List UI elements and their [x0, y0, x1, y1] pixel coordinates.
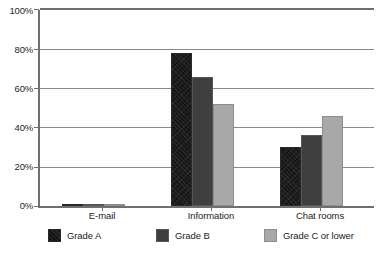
legend-swatch-grade-b-icon	[156, 229, 169, 242]
y-tick-label: 40%	[15, 122, 33, 133]
plot-area	[38, 10, 374, 208]
y-tick-mark	[34, 206, 39, 207]
bar-chart: 100% 80% 60% 40% 20% 0% E-mail	[0, 0, 383, 254]
legend-label-grade-c-or-lower: Grade C or lower	[283, 230, 354, 241]
gridline-100	[40, 8, 374, 10]
gridline-80	[40, 49, 374, 50]
y-tick-label: 80%	[15, 44, 33, 55]
bar-chat-rooms-grade-c-or-lower	[322, 116, 343, 206]
legend-entry-grade-c-or-lower: Grade C or lower	[264, 227, 354, 243]
y-tick-mark	[34, 127, 39, 128]
legend: Grade A Grade B Grade C or lower	[38, 227, 372, 245]
y-tick-label: 60%	[15, 83, 33, 94]
legend-label-grade-b: Grade B	[175, 230, 210, 241]
bar-email-grade-c-or-lower	[104, 204, 125, 206]
legend-swatch-grade-a-icon	[48, 229, 61, 242]
y-tick-label: 20%	[15, 161, 33, 172]
y-tick-label: 100%	[10, 5, 34, 16]
x-axis-label-chat-rooms: Chat rooms	[280, 210, 360, 221]
bar-information-grade-c-or-lower	[213, 104, 234, 206]
y-axis-labels: 100% 80% 60% 40% 20% 0%	[0, 0, 33, 254]
bar-chat-rooms-grade-a	[280, 147, 301, 206]
bar-information-grade-b	[192, 77, 213, 206]
y-tick-mark	[34, 49, 39, 50]
x-axis-label-email: E-mail	[62, 210, 142, 221]
y-tick-label: 0%	[20, 200, 33, 211]
y-tick-mark	[34, 9, 39, 10]
legend-entry-grade-a: Grade A	[48, 227, 101, 243]
x-axis-label-information: Information	[171, 210, 251, 221]
y-tick-mark	[34, 167, 39, 168]
legend-entry-grade-b: Grade B	[156, 227, 210, 243]
bar-email-grade-b	[83, 204, 104, 206]
bar-information-grade-a	[171, 53, 192, 206]
legend-swatch-grade-c-or-lower-icon	[264, 229, 277, 242]
y-tick-mark	[34, 88, 39, 89]
bar-email-grade-a	[62, 204, 83, 206]
bar-chat-rooms-grade-b	[301, 135, 322, 206]
legend-label-grade-a: Grade A	[67, 230, 101, 241]
